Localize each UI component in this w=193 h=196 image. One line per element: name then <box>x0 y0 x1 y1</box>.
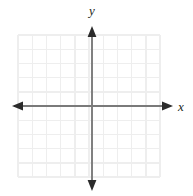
coordinate-plane-figure: y x <box>0 0 193 196</box>
x-axis-label: x <box>177 99 184 114</box>
figure-background <box>0 0 193 196</box>
y-axis-label: y <box>87 3 95 18</box>
coordinate-plane-svg: y x <box>0 0 193 196</box>
